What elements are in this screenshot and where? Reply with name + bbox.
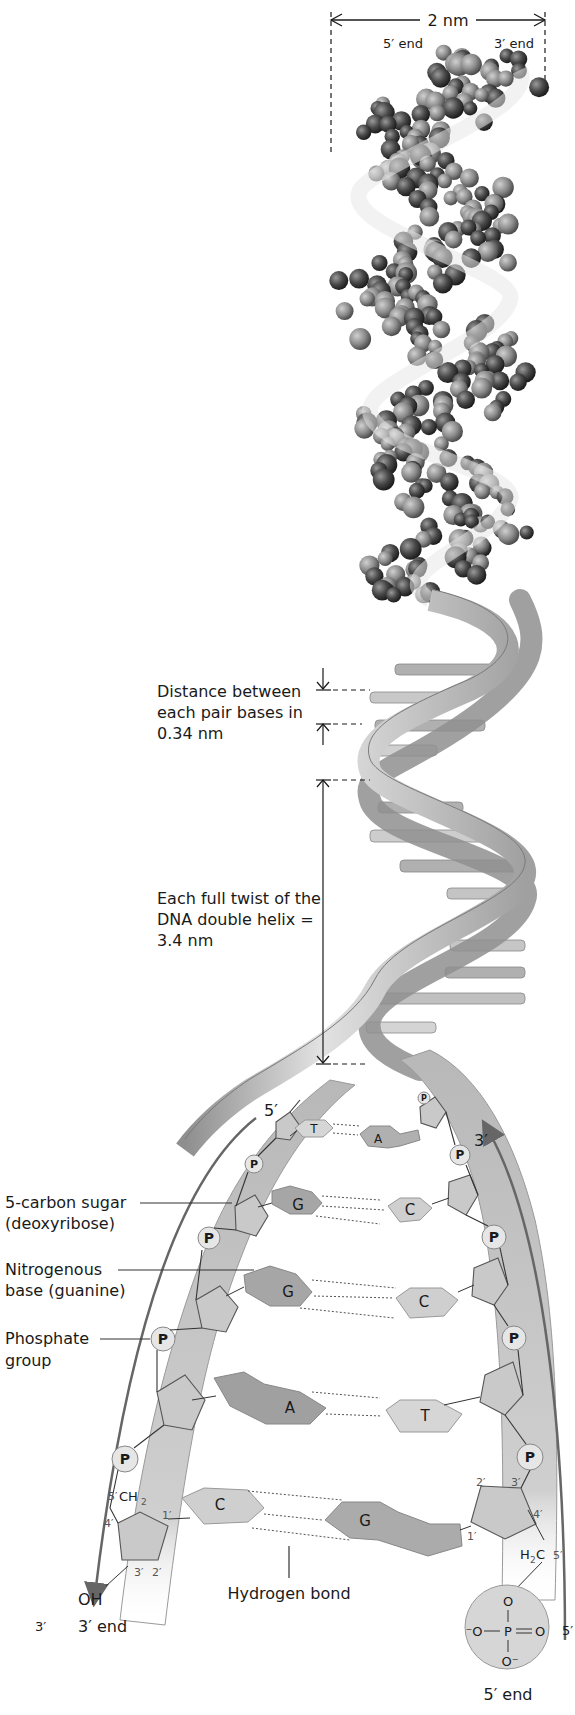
base-pair-4: A T bbox=[192, 1372, 480, 1432]
svg-text:5-carbon sugar: 5-carbon sugar bbox=[5, 1193, 127, 1212]
svg-text:2′: 2′ bbox=[476, 1476, 486, 1489]
svg-text:C: C bbox=[419, 1293, 429, 1311]
svg-text:H: H bbox=[520, 1547, 530, 1562]
svg-text:P: P bbox=[504, 1624, 512, 1639]
callout-sugar: 5-carbon sugar (deoxyribose) bbox=[5, 1193, 232, 1233]
svg-text:G: G bbox=[292, 1196, 304, 1214]
svg-text:base (guanine): base (guanine) bbox=[5, 1281, 125, 1300]
svg-text:1′: 1′ bbox=[162, 1509, 172, 1522]
svg-text:5′: 5′ bbox=[553, 1549, 563, 1562]
svg-text:P: P bbox=[525, 1449, 535, 1465]
svg-text:T: T bbox=[309, 1122, 318, 1136]
svg-text:P: P bbox=[509, 1330, 519, 1346]
svg-text:C: C bbox=[215, 1496, 225, 1514]
svg-text:⁻O: ⁻O bbox=[465, 1624, 482, 1639]
phosphate-circle: P bbox=[245, 1155, 263, 1173]
phosphate-circle: P bbox=[502, 1326, 526, 1350]
right-strand-5prime-bottom: 5′ bbox=[562, 1623, 573, 1638]
svg-text:Hydrogen bond: Hydrogen bond bbox=[227, 1584, 350, 1603]
left-strand-5prime: 5′ bbox=[264, 1101, 278, 1120]
phosphate-circle: P bbox=[517, 1444, 543, 1470]
svg-text:Nitrogenous: Nitrogenous bbox=[5, 1260, 102, 1279]
full-twist-label-line1: Each full twist of the bbox=[157, 889, 321, 908]
phosphate-circle: P bbox=[450, 1145, 470, 1165]
space-filling-helix bbox=[329, 45, 549, 604]
svg-text:1′: 1′ bbox=[467, 1530, 477, 1543]
base-spacing-label-line1: Distance between bbox=[157, 682, 301, 701]
phosphate-circle: P bbox=[198, 1227, 220, 1249]
svg-text:P: P bbox=[421, 1094, 427, 1103]
svg-text:3′: 3′ bbox=[511, 1476, 521, 1489]
svg-text:A: A bbox=[285, 1399, 296, 1417]
base-spacing-indicator: Distance between each pair bases in 0.34… bbox=[157, 668, 370, 745]
svg-text:2′: 2′ bbox=[152, 1566, 162, 1579]
base-spacing-label-line3: 0.34 nm bbox=[157, 724, 223, 743]
svg-text:O⁻: O⁻ bbox=[501, 1654, 518, 1669]
svg-text:O: O bbox=[535, 1624, 545, 1639]
full-twist-label-line3: 3.4 nm bbox=[157, 931, 213, 950]
svg-text:P: P bbox=[158, 1331, 168, 1347]
flattened-dna-ladder: 5′ 3′ 3′ 5′ P P P P P P P P bbox=[5, 1050, 573, 1704]
right-5prime-end-label: 5′ end bbox=[483, 1685, 532, 1704]
svg-text:4′: 4′ bbox=[104, 1517, 114, 1530]
dna-structure-diagram: 2 nm 5′ end 3′ end bbox=[0, 0, 575, 1715]
phosphate-circle: P bbox=[482, 1225, 506, 1249]
svg-text:CH: CH bbox=[119, 1489, 138, 1504]
right-strand-3prime: 3′ bbox=[474, 1131, 488, 1150]
svg-text:C: C bbox=[405, 1201, 415, 1219]
phosphate-circle: P bbox=[151, 1327, 175, 1351]
full-twist-label-line2: DNA double helix = bbox=[157, 910, 314, 929]
callout-hydrogen-bond: Hydrogen bond bbox=[227, 1546, 350, 1603]
svg-text:T: T bbox=[419, 1407, 430, 1425]
svg-text:P: P bbox=[204, 1230, 214, 1246]
svg-text:3′: 3′ bbox=[134, 1566, 144, 1579]
svg-text:P: P bbox=[489, 1229, 499, 1245]
width-label: 2 nm bbox=[428, 11, 469, 30]
svg-text:group: group bbox=[5, 1351, 51, 1370]
svg-text:G: G bbox=[282, 1283, 294, 1301]
svg-text:O: O bbox=[503, 1594, 513, 1609]
ribbon-helix bbox=[185, 589, 532, 1150]
phosphate-circle: P bbox=[112, 1446, 138, 1472]
svg-text:G: G bbox=[359, 1512, 371, 1530]
left-strand-3prime-bottom: 3′ bbox=[35, 1619, 46, 1634]
svg-text:Phosphate: Phosphate bbox=[5, 1329, 89, 1348]
base-pair-3: G C bbox=[226, 1266, 474, 1318]
left-3prime-end-label: 3′ end bbox=[78, 1617, 127, 1636]
top-5prime-end-label: 5′ end bbox=[383, 36, 423, 51]
base-pair-1: T A bbox=[290, 1120, 420, 1148]
top-3prime-end-label: 3′ end bbox=[494, 36, 534, 51]
terminal-phosphate-group: O ⁻O P O O⁻ bbox=[465, 1585, 549, 1669]
svg-text:C: C bbox=[536, 1547, 545, 1562]
svg-text:P: P bbox=[250, 1158, 258, 1171]
svg-text:5′: 5′ bbox=[108, 1490, 118, 1503]
base-pair-2: G C bbox=[258, 1186, 449, 1224]
svg-text:P: P bbox=[456, 1148, 465, 1162]
callout-phosphate: Phosphate group bbox=[5, 1329, 150, 1370]
svg-text:4′: 4′ bbox=[533, 1508, 543, 1521]
phosphate-circle: P bbox=[418, 1092, 430, 1104]
oh-group-label: OH bbox=[78, 1590, 103, 1609]
base-spacing-label-line2: each pair bases in bbox=[157, 703, 303, 722]
svg-text:A: A bbox=[374, 1132, 383, 1146]
svg-text:2: 2 bbox=[530, 1555, 536, 1565]
svg-text:P: P bbox=[120, 1451, 130, 1467]
svg-text:2: 2 bbox=[141, 1497, 147, 1507]
svg-text:(deoxyribose): (deoxyribose) bbox=[5, 1214, 115, 1233]
base-pair-5: C G bbox=[168, 1488, 471, 1556]
